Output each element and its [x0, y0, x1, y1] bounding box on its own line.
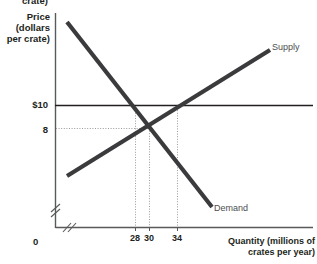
- y-tick-label-10: $10: [12, 99, 48, 110]
- supply-curve-label: Supply: [272, 42, 300, 53]
- y-axis-title: Price (dollars per crate): [0, 11, 50, 45]
- clipped-top-text: crate): [22, 0, 48, 6]
- supply-curve: [67, 50, 270, 176]
- x-tick-label-30: 30: [139, 233, 159, 244]
- guide-lines: [56, 105, 178, 227]
- origin-label: 0: [33, 236, 38, 247]
- demand-curve-label: Demand: [214, 203, 248, 214]
- y-tick-label-8: 8: [12, 124, 48, 135]
- supply-demand-chart: crate) Price (dollars per crate) Quantit…: [0, 0, 317, 264]
- x-tick-label-34: 34: [167, 233, 187, 244]
- x-axis-title: Quantity (millions of crates per year): [196, 236, 315, 257]
- demand-curve: [67, 22, 212, 207]
